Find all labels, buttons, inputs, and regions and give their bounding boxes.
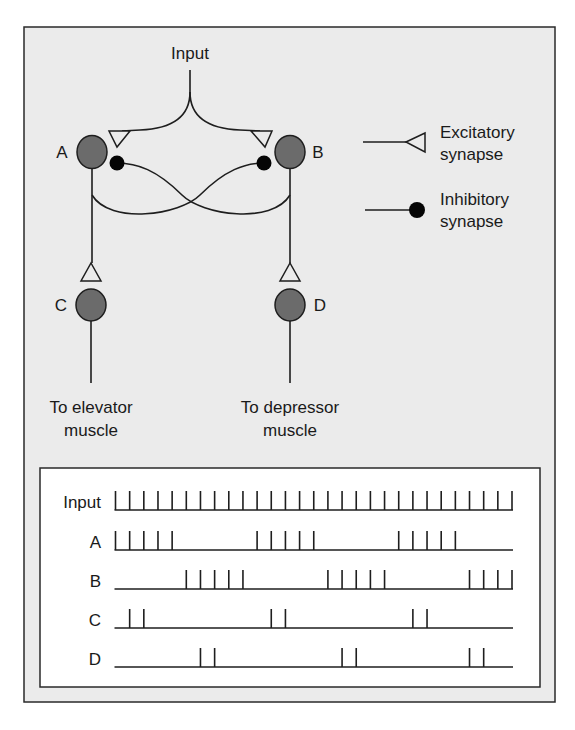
neuron-c-label: C — [55, 296, 67, 315]
legend-excitatory-label-2: synapse — [440, 145, 503, 164]
row-label: Input — [63, 493, 101, 512]
neuron-a — [77, 136, 107, 169]
legend-inhibitory-label-2: synapse — [440, 212, 503, 231]
row-label: C — [89, 611, 101, 630]
neuron-c — [76, 289, 106, 321]
neural-circuit-figure: Input A B C D To elevator muscle — [0, 0, 575, 730]
neuron-d-label: D — [314, 296, 326, 315]
depressor-label-line1: To depressor — [241, 398, 340, 417]
elevator-label-line2: muscle — [64, 421, 118, 440]
depressor-label-line2: muscle — [263, 421, 317, 440]
inhibitory-synapse-icon — [257, 156, 272, 171]
row-label: D — [89, 650, 101, 669]
neuron-d — [275, 289, 305, 321]
legend-excitatory-label-1: Excitatory — [440, 123, 515, 142]
neuron-a-label: A — [56, 143, 68, 162]
row-label: A — [90, 533, 102, 552]
inhibitory-synapse-icon — [110, 156, 125, 171]
inhibitory-synapse-icon — [409, 202, 425, 218]
row-label: B — [90, 572, 101, 591]
neuron-b — [275, 136, 305, 169]
input-label: Input — [171, 44, 209, 63]
legend-inhibitory-label-1: Inhibitory — [440, 190, 509, 209]
elevator-label-line1: To elevator — [49, 398, 132, 417]
neuron-b-label: B — [312, 143, 323, 162]
